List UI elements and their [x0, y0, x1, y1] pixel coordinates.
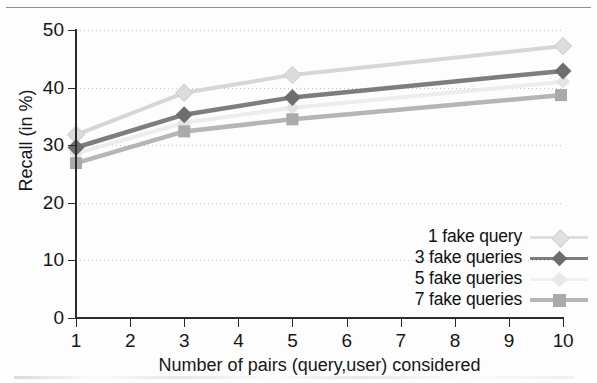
- x-tick-3: [184, 318, 185, 327]
- x-tick-label-10: 10: [543, 330, 583, 352]
- x-tick-label-5: 5: [272, 330, 312, 352]
- legend-swatch-7-fake-queries: [530, 291, 588, 309]
- x-tick-10: [563, 318, 564, 327]
- x-tick-label-7: 7: [381, 330, 421, 352]
- x-tick-label-2: 2: [110, 330, 150, 352]
- x-tick-6: [347, 318, 348, 327]
- x-tick-label-8: 8: [435, 330, 475, 352]
- legend-label-7-fake-queries: 7 fake queries: [415, 289, 522, 310]
- chart-legend: 1 fake query 3 fake queries 5 fake queri…: [392, 226, 588, 310]
- x-tick-4: [238, 318, 239, 327]
- x-axis-line: [75, 317, 564, 319]
- legend-item-1-fake-query: 1 fake query: [392, 226, 588, 247]
- x-tick-label-3: 3: [164, 330, 204, 352]
- x-tick-label-6: 6: [327, 330, 367, 352]
- x-tick-label-1: 1: [56, 330, 96, 352]
- x-tick-7: [401, 318, 402, 327]
- y-tick-50: [68, 30, 77, 31]
- y-axis-line: [75, 29, 77, 319]
- series-3-line: [76, 71, 563, 148]
- y-axis-title: Recall (in %): [16, 51, 37, 231]
- legend-label-5-fake-queries: 5 fake queries: [415, 268, 522, 289]
- y-tick-10: [68, 260, 77, 261]
- x-tick-1: [76, 318, 77, 327]
- legend-swatch-5-fake-queries: [530, 270, 588, 288]
- y-tick-label-50: 50: [0, 19, 64, 41]
- legend-swatch-3-fake-queries: [530, 249, 588, 267]
- x-tick-2: [130, 318, 131, 327]
- legend-label-1-fake-query: 1 fake query: [428, 226, 522, 247]
- screenshot-root: 50 40 30 20 10 0 1 2 3 4 5 6 7 8 9 10: [0, 0, 597, 383]
- legend-item-5-fake-queries: 5 fake queries: [392, 268, 588, 289]
- legend-item-7-fake-queries: 7 fake queries: [392, 289, 588, 310]
- recall-line-chart: 50 40 30 20 10 0 1 2 3 4 5 6 7 8 9 10: [0, 0, 597, 383]
- y-tick-40: [68, 88, 77, 89]
- x-tick-label-9: 9: [489, 330, 529, 352]
- y-tick-20: [68, 203, 77, 204]
- legend-item-3-fake-queries: 3 fake queries: [392, 247, 588, 268]
- y-tick-label-0: 0: [0, 307, 64, 329]
- x-tick-9: [509, 318, 510, 327]
- legend-swatch-1-fake-query: [530, 228, 588, 246]
- x-tick-label-4: 4: [218, 330, 258, 352]
- y-tick-30: [68, 145, 77, 146]
- x-tick-8: [455, 318, 456, 327]
- legend-label-3-fake-queries: 3 fake queries: [415, 247, 522, 268]
- x-axis-title: Number of pairs (query,user) considered: [76, 355, 563, 376]
- x-tick-5: [292, 318, 293, 327]
- y-tick-label-10: 10: [0, 249, 64, 271]
- series-7-fake-queries: [70, 89, 567, 169]
